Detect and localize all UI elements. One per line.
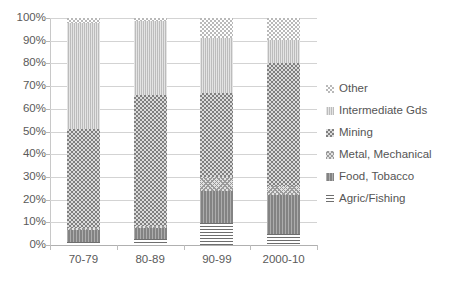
legend-swatch-icon (326, 151, 334, 159)
bar-segment-food-tobacco[interactable] (67, 230, 100, 241)
bar-segment-metal-mechanical[interactable] (267, 186, 300, 195)
y-axis-tick-mark (45, 222, 50, 223)
bar-segment-food-tobacco[interactable] (134, 228, 167, 239)
legend-item-other[interactable]: Other (326, 78, 448, 100)
y-axis-tick-mark (45, 177, 50, 178)
legend-item-agric-fishing[interactable]: Agric/Fishing (326, 188, 448, 210)
stacked-bar-chart: 0%10%20%30%40%50%60%70%80%90%100% 70-798… (0, 0, 451, 286)
y-axis-tick-mark (45, 109, 50, 110)
legend-swatch-icon (326, 195, 334, 203)
legend-swatch-icon (326, 129, 334, 137)
bar-segment-agric-fishing[interactable] (267, 234, 300, 245)
plot-area (50, 18, 317, 245)
bar-90-99[interactable] (200, 18, 233, 245)
y-axis-tick-label: 70% (2, 80, 46, 92)
legend-swatch-icon (326, 85, 334, 93)
y-axis-tick-label: 90% (2, 35, 46, 47)
bar-2000-10[interactable] (267, 18, 300, 245)
y-axis-tick-label: 100% (2, 12, 46, 24)
y-axis-tick-label: 0% (2, 239, 46, 251)
x-axis-labels: 70-7980-8990-992000-10 (50, 254, 317, 274)
bar-segment-food-tobacco[interactable] (267, 195, 300, 234)
y-axis-tick-label: 30% (2, 171, 46, 183)
legend-item-label: Food, Tobacco (339, 171, 414, 183)
y-axis-tick-mark (45, 154, 50, 155)
bar-segment-agric-fishing[interactable] (134, 239, 167, 245)
bar-segment-intermediate-gds[interactable] (134, 21, 167, 95)
bar-segment-other[interactable] (267, 18, 300, 40)
y-axis-tick-label: 40% (2, 148, 46, 160)
x-axis-tick-mark (117, 245, 118, 250)
bar-segment-intermediate-gds[interactable] (267, 40, 300, 64)
bar-80-89[interactable] (134, 18, 167, 245)
bar-segment-metal-mechanical[interactable] (200, 177, 233, 191)
legend-item-metal-mechanical[interactable]: Metal, Mechanical (326, 144, 448, 166)
bar-segment-intermediate-gds[interactable] (200, 38, 233, 92)
bar-segment-mining[interactable] (134, 95, 167, 226)
bar-segment-agric-fishing[interactable] (200, 223, 233, 245)
bar-70-79[interactable] (67, 18, 100, 245)
y-axis-tick-mark (45, 41, 50, 42)
bar-segment-other[interactable] (200, 18, 233, 38)
legend-swatch-icon (326, 173, 334, 181)
x-axis-tick-label: 80-89 (135, 254, 164, 266)
x-axis-tick-mark (250, 245, 251, 250)
y-axis-tick-mark (45, 86, 50, 87)
bar-segment-metal-mechanical[interactable] (67, 228, 100, 230)
x-axis-tick-mark (184, 245, 185, 250)
legend-item-intermediate-gds[interactable]: Intermediate Gds (326, 100, 448, 122)
bar-segment-intermediate-gds[interactable] (67, 23, 100, 130)
bar-segment-other[interactable] (67, 18, 100, 23)
bar-segment-food-tobacco[interactable] (200, 191, 233, 224)
y-axis-tick-label: 20% (2, 194, 46, 206)
x-axis-tick-label: 2000-10 (263, 254, 305, 266)
y-axis-tick-mark (45, 18, 50, 19)
chart-legend: OtherIntermediate GdsMiningMetal, Mechan… (326, 78, 448, 210)
legend-item-label: Agric/Fishing (339, 193, 405, 205)
legend-swatch-icon (326, 107, 334, 115)
legend-item-food-tobacco[interactable]: Food, Tobacco (326, 166, 448, 188)
x-axis-tick-mark (317, 245, 318, 250)
y-axis-tick-label: 50% (2, 126, 46, 138)
legend-item-label: Metal, Mechanical (339, 149, 432, 161)
legend-item-label: Mining (339, 127, 373, 139)
x-axis-tick-label: 90-99 (202, 254, 231, 266)
legend-item-mining[interactable]: Mining (326, 122, 448, 144)
bar-segment-mining[interactable] (200, 93, 233, 177)
y-axis-tick-label: 10% (2, 217, 46, 229)
legend-item-label: Intermediate Gds (339, 105, 427, 117)
bar-segment-other[interactable] (134, 18, 167, 21)
y-axis-tick-mark (45, 63, 50, 64)
y-axis-tick-mark (45, 200, 50, 201)
bar-segment-agric-fishing[interactable] (67, 242, 100, 245)
bar-segment-metal-mechanical[interactable] (134, 226, 167, 228)
y-axis-tick-label: 60% (2, 103, 46, 115)
x-axis-tick-label: 70-79 (69, 254, 98, 266)
y-axis-tick-mark (45, 132, 50, 133)
bar-segment-mining[interactable] (267, 63, 300, 186)
bar-segment-mining[interactable] (67, 129, 100, 228)
x-axis-tick-mark (50, 245, 51, 250)
y-axis-labels: 0%10%20%30%40%50%60%70%80%90%100% (0, 18, 46, 245)
y-axis-tick-label: 80% (2, 58, 46, 70)
legend-item-label: Other (339, 83, 368, 95)
